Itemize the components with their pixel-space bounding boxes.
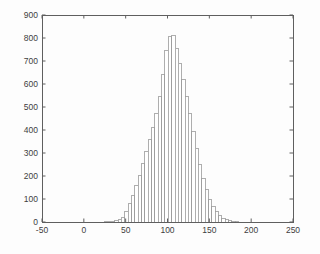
x-tick-label: 0 (81, 225, 86, 235)
y-tick-label: 600 (24, 79, 38, 89)
histogram-bar (162, 75, 165, 222)
histogram-bar (158, 97, 161, 222)
histogram-bar (148, 140, 151, 222)
histogram-bar (168, 37, 171, 222)
histogram-bar (195, 148, 198, 222)
y-tick-label: 800 (24, 33, 38, 43)
histogram-bar (185, 97, 188, 222)
histogram-bar (175, 48, 178, 222)
histogram-bar (155, 114, 158, 222)
x-tick-label: 200 (244, 225, 258, 235)
histogram-bar (198, 165, 201, 223)
histogram-bar (152, 128, 155, 222)
y-tick-label: 200 (24, 171, 38, 181)
histogram-bar (145, 152, 148, 222)
histogram-bar (128, 204, 131, 222)
histogram-bar (219, 216, 222, 222)
histogram-bar (132, 195, 135, 222)
histogram-bar (205, 190, 208, 222)
y-tick-label: 700 (24, 56, 38, 66)
histogram-bar (222, 218, 225, 222)
figure-canvas: -500501001502002500100200300400500600700… (0, 0, 320, 254)
x-tick-label: 150 (202, 225, 216, 235)
y-tick-label: 400 (24, 125, 38, 135)
histogram-bar (212, 206, 215, 222)
y-tick-label: 0 (33, 217, 38, 227)
histogram-bar (165, 51, 168, 222)
histogram-bar (178, 63, 181, 222)
y-tick-label: 900 (24, 10, 38, 20)
histogram-bar (202, 178, 205, 222)
x-tick-label: 100 (160, 225, 174, 235)
histogram-bar (188, 114, 191, 222)
y-tick-label: 300 (24, 148, 38, 158)
y-tick-label: 500 (24, 102, 38, 112)
histogram-plot: -500501001502002500100200300400500600700… (0, 0, 320, 254)
x-tick-label: 250 (286, 225, 300, 235)
x-tick-label: 50 (121, 225, 131, 235)
histogram-bar (138, 175, 141, 222)
histogram-bar (135, 185, 138, 222)
histogram-bar (172, 35, 175, 222)
histogram-bar (121, 217, 124, 222)
y-tick-label: 100 (24, 194, 38, 204)
histogram-bar (142, 163, 145, 222)
histogram-bar (215, 212, 218, 222)
histogram-bar (192, 131, 195, 222)
histogram-bar (182, 79, 185, 222)
